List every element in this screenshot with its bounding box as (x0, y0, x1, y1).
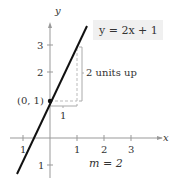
y-tick-neg1: 1 (38, 161, 44, 171)
x-tick-1: 1 (74, 145, 80, 155)
y-tick-2: 2 (37, 68, 43, 78)
x-tick-2: 2 (101, 145, 107, 155)
x-tick-3: 3 (128, 145, 134, 155)
run-label: 1 (60, 111, 66, 121)
slope-label: m = 2 (89, 158, 123, 169)
rise-label: 2 units up (86, 68, 137, 78)
y-tick-3: 3 (37, 41, 43, 51)
point-label: (0, 1) (17, 96, 44, 106)
x-tick-neg1: 1 (20, 145, 26, 155)
y-axis-arrow-icon (48, 22, 52, 28)
y-axis-label: y (55, 6, 61, 16)
x-axis-label: x (163, 133, 169, 143)
point-0-1 (48, 99, 52, 103)
equation-label: y = 2x + 1 (99, 25, 158, 36)
